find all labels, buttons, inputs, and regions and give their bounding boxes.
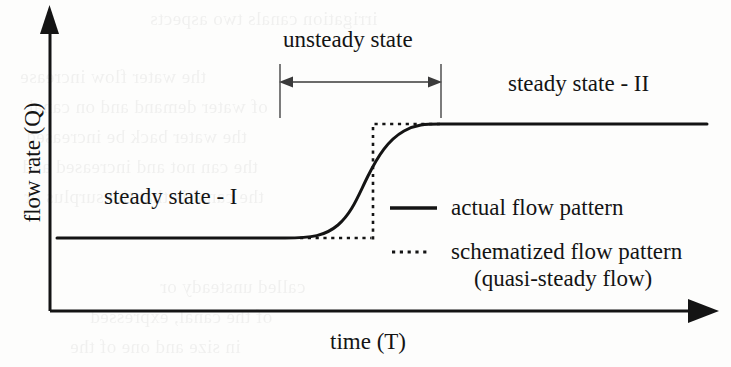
axis-x [50, 299, 719, 323]
span-arrowhead-right [428, 77, 442, 88]
annotation-steady-state-one: steady state - I [104, 185, 237, 208]
series-actual-flow-pattern [57, 124, 707, 238]
legend-label-actual: actual flow pattern [451, 196, 623, 221]
annotation-steady-state-two: steady state - II [508, 72, 649, 95]
unsteady-state-span [279, 64, 442, 118]
series-schematized-flow-pattern [300, 123, 440, 240]
figure-flow-rate-vs-time: irrigation canals two aspects the water … [0, 0, 731, 367]
annotation-unsteady-state: unsteady state [283, 28, 413, 51]
legend-label-schematized: schematized flow pattern [451, 240, 682, 265]
axis-label-x: time (T) [330, 330, 406, 353]
span-arrowhead-left [279, 77, 293, 88]
legend-label-schematized-sub: (quasi-steady flow) [474, 267, 652, 292]
axis-label-y: flow rate (Q) [21, 83, 44, 243]
